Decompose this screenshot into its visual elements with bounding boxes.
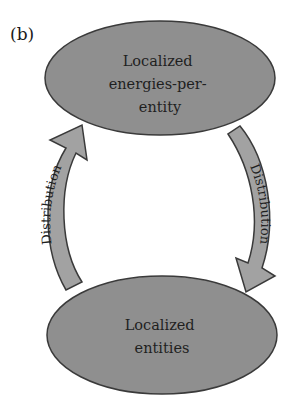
node-localized-entities: Localized entities [47, 276, 277, 394]
node-top-line-3: entity [139, 99, 182, 115]
node-bottom-line-2: entities [135, 340, 190, 356]
node-localized-energies-per-entity: Localized energies-per- entity [45, 21, 275, 135]
cycle-diagram: Distribution Distribution Localized ener… [0, 0, 300, 415]
right-arrow-label: Distribution [247, 162, 273, 246]
node-top-line-2: energies-per- [109, 76, 207, 92]
right-distribution-arrow: Distribution [228, 126, 275, 292]
svg-text:Distribution: Distribution [247, 162, 273, 246]
node-top-line-1: Localized [123, 53, 193, 69]
node-bottom-line-1: Localized [125, 317, 195, 333]
arrow-down-icon [228, 126, 275, 292]
left-distribution-arrow: Distribution [38, 125, 87, 290]
